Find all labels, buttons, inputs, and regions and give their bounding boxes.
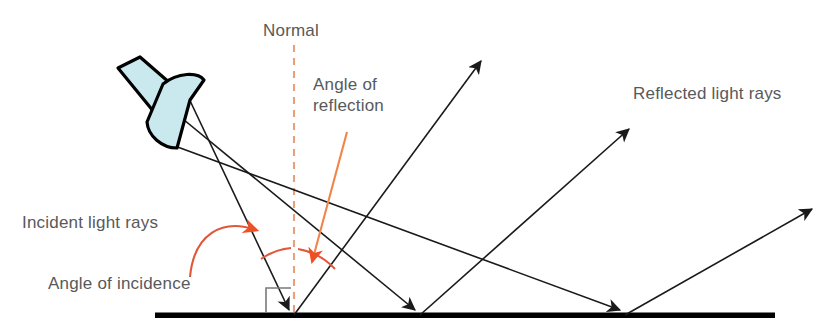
reflection-diagram: Normal Angle ofreflection Reflected ligh…	[0, 0, 838, 336]
reflecting-surface	[155, 313, 775, 319]
label-angle-of-reflection: Angle ofreflection	[313, 74, 384, 116]
label-angle-of-reflection-line1: Angle of	[313, 75, 377, 94]
label-angle-of-incidence: Angle of incidence	[48, 273, 191, 294]
incident-ray-1	[184, 88, 289, 310]
angle-of-incidence-arc	[261, 248, 291, 259]
label-angle-of-reflection-line2: reflection	[313, 96, 384, 115]
incident-rays	[164, 88, 620, 310]
reflected-ray-3	[625, 209, 812, 315]
label-normal: Normal	[263, 20, 319, 41]
reflected-ray-2	[420, 129, 629, 315]
angle-of-reflection-pointer	[312, 132, 347, 262]
label-reflected-light-rays: Reflected light rays	[633, 83, 782, 104]
label-incident-light-rays: Incident light rays	[22, 212, 158, 233]
angle-of-incidence-pointer	[190, 226, 256, 277]
right-angle-marker	[266, 288, 291, 313]
